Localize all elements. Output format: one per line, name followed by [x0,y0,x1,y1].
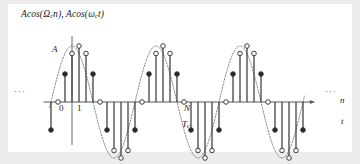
sample-marker [49,128,54,133]
sample-marker [273,128,278,133]
x-axis-label-continuous: t [341,117,344,126]
sample-marker [98,100,103,105]
sample-marker [70,51,75,56]
sample-marker [259,72,264,77]
stem-plot-group [44,36,315,160]
sample-marker [287,156,292,161]
sample-marker [140,100,145,105]
sample-marker [168,51,173,56]
sample-marker [217,128,222,133]
x-axis-arrow [310,100,315,104]
sample-marker [210,148,215,153]
sample-marker [154,51,159,56]
ellipsis-right: ··· [325,86,337,96]
sample-marker [91,72,96,77]
sample-marker [245,44,250,49]
sample-marker [196,148,201,153]
sample-marker [224,100,229,105]
figure-root: Acos(Ωcn), Acos(ωct) A 0 1 N Tc n t ··· … [0,0,360,164]
sample-marker [161,44,166,49]
sample-marker [133,128,138,133]
plot-canvas [0,0,360,164]
period-label-n: N [184,104,190,113]
sample-marker [77,44,82,49]
x-tick-label-1: 1 [77,104,82,113]
sample-marker [63,72,68,77]
sample-marker [252,51,257,56]
period-label-tc: Tc [182,120,190,129]
sample-marker [231,72,236,77]
sample-marker [105,128,110,133]
ellipsis-left: ··· [14,86,26,96]
amplitude-label: A [52,45,58,54]
sample-marker [147,72,152,77]
sample-marker [266,100,271,105]
sample-marker [175,72,180,77]
sample-marker [126,148,131,153]
sample-marker [280,148,285,153]
sample-marker [84,51,89,56]
sample-marker [301,128,306,133]
plot-title: Acos(Ωcn), Acos(ωct) [21,10,104,20]
sample-marker [112,148,117,153]
sample-marker [294,148,299,153]
x-axis-label-discrete: n [340,96,345,105]
x-tick-label-0: 0 [59,104,64,113]
sample-marker [203,156,208,161]
sample-marker [238,51,243,56]
sample-marker [119,156,124,161]
